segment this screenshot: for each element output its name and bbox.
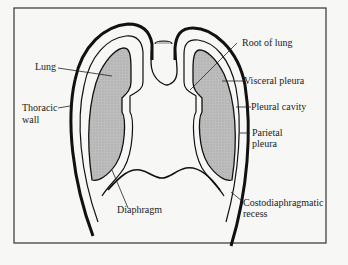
label-thoracic-wall-2: wall [22,114,39,125]
label-thoracic-wall: Thoracic [22,102,58,113]
trachea [151,44,177,85]
label-root-of-lung: Root of lung [242,37,293,48]
label-parietal-pleura: Parietal [252,127,283,138]
thorax-diagram: Lung Thoracic wall Root of lung Visceral… [0,0,348,265]
label-lung: Lung [35,61,56,72]
leader-thoracic-wall [58,106,70,108]
label-costodiaphragmatic-recess-2: recess [243,208,268,219]
trachea-lumen [155,41,172,44]
diaphragm [108,168,220,190]
label-costodiaphragmatic-recess: Costodiaphragmatic [243,197,324,208]
label-parietal-pleura-2: pleura [252,138,278,149]
label-visceral-pleura: Visceral pleura [244,75,305,86]
label-pleural-cavity: Pleural cavity [251,101,306,112]
label-diaphragm: Diaphragm [117,204,162,215]
leader-diaphragm [112,170,128,208]
lung-left [89,48,131,180]
